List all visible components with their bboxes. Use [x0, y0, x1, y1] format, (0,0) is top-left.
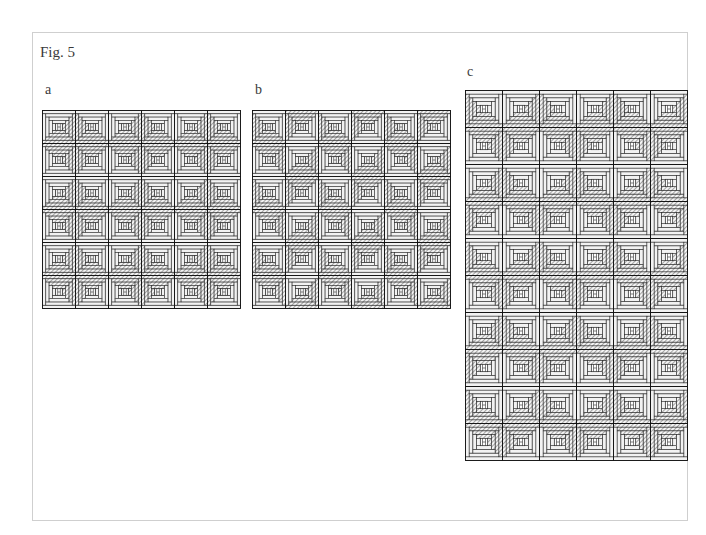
log-cabin-block	[286, 111, 319, 144]
log-cabin-block	[540, 202, 577, 239]
panel-c-label: c	[467, 64, 473, 80]
log-cabin-block	[43, 276, 76, 309]
log-cabin-block	[503, 91, 540, 128]
log-cabin-block	[418, 144, 451, 177]
log-cabin-block	[651, 313, 688, 350]
log-cabin-block	[109, 177, 142, 210]
log-cabin-block	[503, 350, 540, 387]
log-cabin-block	[109, 144, 142, 177]
log-cabin-block	[466, 202, 503, 239]
log-cabin-block	[614, 387, 651, 424]
log-cabin-block	[466, 128, 503, 165]
log-cabin-block	[466, 239, 503, 276]
log-cabin-block	[614, 424, 651, 461]
log-cabin-block	[352, 111, 385, 144]
log-cabin-block	[466, 165, 503, 202]
log-cabin-block	[614, 276, 651, 313]
log-cabin-block	[76, 177, 109, 210]
log-cabin-block	[466, 350, 503, 387]
log-cabin-block	[175, 276, 208, 309]
log-cabin-block	[253, 243, 286, 276]
log-cabin-block	[253, 210, 286, 243]
log-cabin-block	[614, 165, 651, 202]
log-cabin-block	[577, 276, 614, 313]
log-cabin-block	[577, 387, 614, 424]
log-cabin-block	[208, 276, 241, 309]
log-cabin-block	[503, 202, 540, 239]
log-cabin-block	[319, 177, 352, 210]
log-cabin-block	[43, 111, 76, 144]
log-cabin-block	[208, 210, 241, 243]
log-cabin-block	[319, 210, 352, 243]
log-cabin-block	[76, 243, 109, 276]
log-cabin-block	[385, 111, 418, 144]
log-cabin-block	[76, 111, 109, 144]
log-cabin-block	[319, 144, 352, 177]
log-cabin-block	[577, 424, 614, 461]
log-cabin-block	[651, 202, 688, 239]
log-cabin-block	[540, 313, 577, 350]
log-cabin-block	[208, 177, 241, 210]
log-cabin-block	[614, 313, 651, 350]
log-cabin-block	[651, 165, 688, 202]
log-cabin-block	[142, 144, 175, 177]
log-cabin-block	[253, 177, 286, 210]
log-cabin-block	[385, 144, 418, 177]
log-cabin-block	[503, 239, 540, 276]
log-cabin-block	[352, 243, 385, 276]
log-cabin-block	[466, 313, 503, 350]
log-cabin-block	[352, 276, 385, 309]
log-cabin-block	[352, 210, 385, 243]
log-cabin-block	[175, 210, 208, 243]
log-cabin-block	[651, 387, 688, 424]
log-cabin-block	[577, 165, 614, 202]
panel-c-quilt-grid	[465, 90, 688, 461]
log-cabin-block	[43, 177, 76, 210]
log-cabin-block	[614, 350, 651, 387]
log-cabin-block	[503, 424, 540, 461]
log-cabin-block	[208, 243, 241, 276]
log-cabin-block	[286, 144, 319, 177]
log-cabin-block	[540, 276, 577, 313]
log-cabin-block	[540, 239, 577, 276]
log-cabin-block	[503, 313, 540, 350]
log-cabin-block	[385, 276, 418, 309]
log-cabin-block	[385, 243, 418, 276]
log-cabin-block	[614, 202, 651, 239]
log-cabin-block	[418, 210, 451, 243]
panel-a-label: a	[45, 82, 51, 98]
log-cabin-block	[253, 111, 286, 144]
log-cabin-block	[208, 144, 241, 177]
log-cabin-block	[540, 387, 577, 424]
log-cabin-block	[43, 243, 76, 276]
panel-a-quilt-grid	[42, 110, 241, 309]
log-cabin-block	[175, 111, 208, 144]
log-cabin-block	[418, 111, 451, 144]
log-cabin-block	[142, 210, 175, 243]
log-cabin-block	[109, 243, 142, 276]
log-cabin-block	[651, 350, 688, 387]
log-cabin-block	[651, 424, 688, 461]
log-cabin-block	[418, 177, 451, 210]
log-cabin-block	[614, 91, 651, 128]
panel-b-label: b	[255, 82, 262, 98]
log-cabin-block	[385, 210, 418, 243]
log-cabin-block	[466, 387, 503, 424]
log-cabin-block	[175, 243, 208, 276]
log-cabin-block	[76, 276, 109, 309]
log-cabin-block	[76, 144, 109, 177]
log-cabin-block	[43, 210, 76, 243]
figure-title: Fig. 5	[40, 44, 75, 61]
log-cabin-block	[76, 210, 109, 243]
log-cabin-block	[577, 239, 614, 276]
log-cabin-block	[540, 350, 577, 387]
panel-b-quilt-grid	[252, 110, 451, 309]
log-cabin-block	[466, 91, 503, 128]
log-cabin-block	[142, 177, 175, 210]
log-cabin-block	[142, 111, 175, 144]
log-cabin-block	[208, 111, 241, 144]
log-cabin-block	[142, 276, 175, 309]
log-cabin-block	[175, 177, 208, 210]
log-cabin-block	[614, 239, 651, 276]
log-cabin-block	[109, 276, 142, 309]
